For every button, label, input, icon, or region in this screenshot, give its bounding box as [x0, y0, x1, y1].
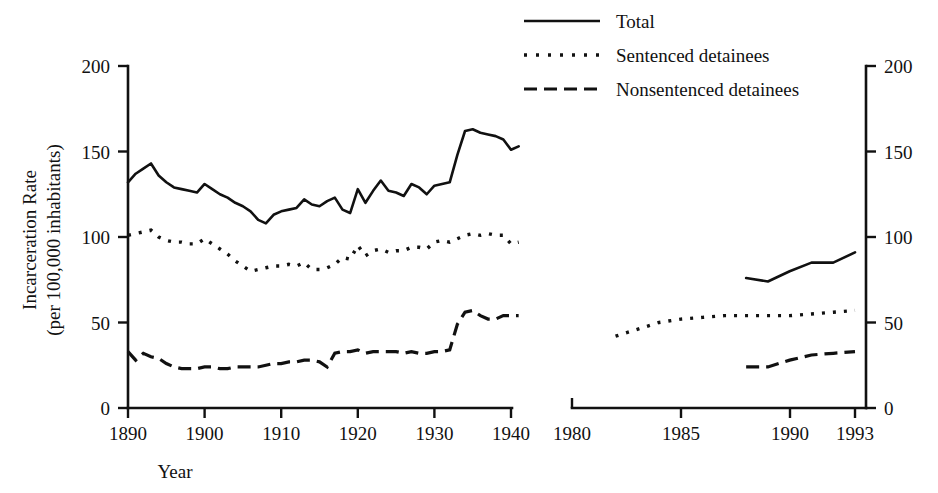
- right-y-tick-label-100: 100: [884, 227, 913, 248]
- chart-legend: Total Sentenced detainees Nonsentenced d…: [524, 11, 799, 100]
- left-x-axis: 1890 1900 1910 1920 1930 1940: [109, 408, 530, 444]
- y-axis-title-line1: Incarceration Rate: [19, 170, 40, 310]
- legend-label-nonsentenced: Nonsentenced detainees: [616, 79, 799, 100]
- legend-label-total: Total: [616, 11, 655, 32]
- series-dashed-left-panel: [128, 311, 519, 369]
- x-tick-label-1985: 1985: [662, 423, 700, 444]
- x-tick-label-1990: 1990: [771, 423, 809, 444]
- x-tick-label-1920: 1920: [339, 423, 377, 444]
- y-tick-label-0: 0: [101, 398, 111, 419]
- x-tick-label-1993: 1993: [836, 423, 874, 444]
- y-tick-label-200: 200: [82, 56, 111, 77]
- x-tick-label-1900: 1900: [186, 423, 224, 444]
- left-y-axis: 200 150 100 50 0: [82, 56, 129, 419]
- chart-series-layer: [128, 129, 855, 368]
- y-tick-label-100: 100: [82, 227, 111, 248]
- y-tick-label-150: 150: [82, 142, 111, 163]
- legend-label-sentenced: Sentenced detainees: [616, 45, 770, 66]
- series-dotted-left-panel: [128, 230, 519, 271]
- chart-figure: Total Sentenced detainees Nonsentenced d…: [0, 0, 938, 493]
- y-axis-title-line2: (per 100,000 inhabitants): [43, 144, 65, 336]
- right-y-tick-label-150: 150: [884, 142, 913, 163]
- x-tick-label-1890: 1890: [109, 423, 147, 444]
- x-tick-label-1940: 1940: [492, 423, 530, 444]
- x-axis-title: Year: [157, 461, 193, 482]
- x-tick-label-1930: 1930: [415, 423, 453, 444]
- right-y-tick-label-50: 50: [884, 313, 903, 334]
- y-tick-label-50: 50: [91, 313, 110, 334]
- series-solid-right-panel: [746, 252, 855, 281]
- right-y-axis: 200 150 100 50 0: [866, 56, 913, 419]
- right-y-tick-label-200: 200: [884, 56, 913, 77]
- right-x-axis: 1980 1985 1990 1993: [553, 398, 874, 444]
- x-tick-label-1910: 1910: [262, 423, 300, 444]
- right-y-tick-label-0: 0: [884, 398, 894, 419]
- x-tick-label-1980: 1980: [553, 423, 591, 444]
- series-dashed-right-panel: [746, 352, 855, 367]
- series-dotted-right-panel: [616, 311, 855, 337]
- y-axis-title: Incarceration Rate (per 100,000 inhabita…: [19, 144, 65, 336]
- incarceration-rate-line-chart: Total Sentenced detainees Nonsentenced d…: [0, 0, 938, 493]
- series-solid-left-panel: [128, 129, 519, 223]
